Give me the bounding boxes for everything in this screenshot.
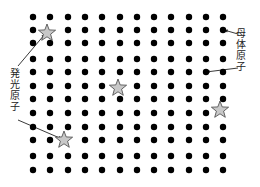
host-atom-dot (151, 14, 157, 20)
host-atom-dot (99, 40, 105, 46)
host-atom-dot (203, 69, 209, 75)
host-atom-dot (82, 96, 88, 102)
host-atom-dot (117, 110, 123, 116)
host-atom-dot (134, 153, 140, 159)
host-atom-dot (151, 110, 157, 116)
host-atom-dot (134, 124, 140, 130)
host-atom-dot (65, 56, 71, 62)
host-atom-dot (30, 110, 36, 116)
host-atom-dot (168, 137, 174, 143)
host-atom-dot (186, 27, 192, 33)
host-atom-dot (186, 110, 192, 116)
host-atom-dot (186, 69, 192, 75)
host-atom-dot (134, 83, 140, 89)
arrow-line (18, 120, 62, 139)
host-atom-dot (203, 40, 209, 46)
host-atom-dot (117, 153, 123, 159)
host-atom-dot (203, 137, 209, 143)
host-atom-dot (220, 124, 226, 130)
host-atom-dot (186, 14, 192, 20)
host-atom-dot (151, 167, 157, 173)
host-atom-dot (134, 96, 140, 102)
host-atom-dot (168, 83, 174, 89)
host-atom-dot (134, 69, 140, 75)
host-atom-dot (151, 96, 157, 102)
host-atom-dot (168, 124, 174, 130)
host-atom-dot (168, 110, 174, 116)
host-atom-dot (134, 167, 140, 173)
host-atom-dot (151, 137, 157, 143)
host-atom-dot (134, 27, 140, 33)
host-atom-dot (220, 40, 226, 46)
host-atom-dot (30, 137, 36, 143)
host-atom-dot (151, 27, 157, 33)
host-atom-dot (168, 14, 174, 20)
host-atom-dot (151, 124, 157, 130)
host-atom-dot (203, 110, 209, 116)
host-atom-dot (82, 56, 88, 62)
host-atom-dot (47, 167, 53, 173)
host-atom-dot (82, 137, 88, 143)
host-atom-dot (168, 153, 174, 159)
emitting-atom-star-icon (109, 79, 126, 95)
host-atom-dot (186, 96, 192, 102)
host-atom-dot (203, 56, 209, 62)
host-atom-dot (82, 167, 88, 173)
host-atom-dot (220, 96, 226, 102)
host-atom-dot (47, 14, 53, 20)
host-atom-dot (82, 40, 88, 46)
host-atom-dot (47, 137, 53, 143)
host-atom-dot (203, 153, 209, 159)
host-atom-dot (203, 124, 209, 130)
host-atom-dot (220, 14, 226, 20)
host-atom-dot (47, 96, 53, 102)
host-atom-dot (186, 124, 192, 130)
host-atom-dot (99, 27, 105, 33)
host-atom-dot (99, 110, 105, 116)
host-atom-dot (117, 96, 123, 102)
host-atom-dot (47, 56, 53, 62)
host-atom-dot (117, 27, 123, 33)
host-atom-dot (65, 27, 71, 33)
host-atom-label: 母体原子 (235, 28, 247, 72)
host-atom-dot (82, 83, 88, 89)
emitting-atom-star-icon (55, 131, 72, 147)
host-atom-dot (82, 69, 88, 75)
host-atom-dot (117, 167, 123, 173)
host-atom-dot (220, 56, 226, 62)
host-atom-dot (117, 69, 123, 75)
host-atom-dot (117, 124, 123, 130)
host-atom-dot (168, 27, 174, 33)
host-atom-dot (99, 96, 105, 102)
host-atom-dot (99, 69, 105, 75)
host-atom-dot (47, 110, 53, 116)
host-atom-dot (203, 167, 209, 173)
host-atom-dot (47, 83, 53, 89)
host-atom-dot (65, 69, 71, 75)
host-atom-dot (99, 14, 105, 20)
host-atom-dot (30, 96, 36, 102)
host-atom-dot (30, 27, 36, 33)
host-atom-dot (65, 83, 71, 89)
host-atom-dot (65, 96, 71, 102)
host-atom-dot (47, 124, 53, 130)
host-atom-dot (30, 124, 36, 130)
host-atom-dot (117, 56, 123, 62)
host-atom-dot (30, 167, 36, 173)
host-atom-dot (186, 153, 192, 159)
host-atom-dot (117, 40, 123, 46)
lattice-diagram (0, 0, 260, 187)
host-atom-dot (99, 167, 105, 173)
host-atom-dot (65, 124, 71, 130)
host-atom-dot (186, 137, 192, 143)
host-atom-dot (99, 124, 105, 130)
host-atom-dot (65, 14, 71, 20)
host-atom-dot (168, 40, 174, 46)
host-atom-dot (186, 40, 192, 46)
host-atom-dot (168, 56, 174, 62)
host-atom-dot (220, 167, 226, 173)
host-atom-dot (168, 167, 174, 173)
host-atom-dot (99, 137, 105, 143)
host-atom-dot (151, 69, 157, 75)
host-atom-dot (30, 153, 36, 159)
